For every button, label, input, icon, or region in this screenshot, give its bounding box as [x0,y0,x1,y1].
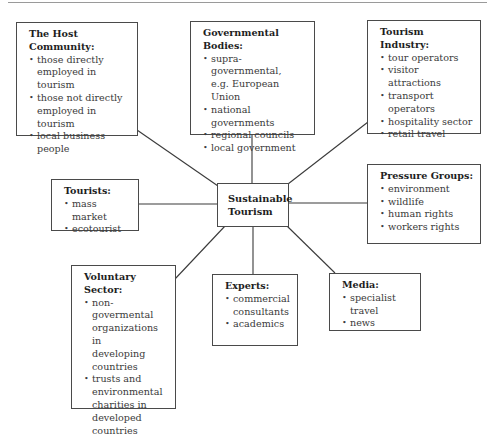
bullet-icon: • [29,130,34,143]
list-item: • regional councils [203,129,308,142]
item-text: specialist travel [350,292,414,318]
item-text: academics [233,318,291,331]
item-text: non-govermental [92,297,169,323]
bullet-icon: • [225,293,230,306]
node-media: Media: • specialist travel • news [329,273,421,331]
title-line: Bodies: [203,40,308,53]
item-text: those not directly [37,92,131,105]
bullet-icon: • [380,90,385,103]
list-item: • hospitality sector [380,116,474,129]
node-title: Tourists: [64,185,132,198]
item-text: countries [92,361,169,374]
item-text: environmental [92,386,169,399]
list-item: • visitor attractions [380,64,474,90]
list-item: • news [342,317,414,330]
node-title: Media: [342,279,414,292]
bullet-icon: • [84,373,89,386]
title-line: Experts: [225,280,291,293]
node-tourists: Tourists: • mass market • ecotourist [51,179,139,231]
title-line: Voluntary Sector: [84,271,169,297]
item-text: countries [92,425,169,437]
item-text: human rights [388,208,474,221]
node-governmental-bodies: Governmental Bodies: • supra-governmenta… [190,21,315,135]
title-line: Tourism Industry: [380,26,474,52]
title-line: Community: [29,41,131,54]
node-title: The Host Community: [29,28,131,54]
center-title-line: Tourism [228,205,288,218]
bullet-icon: • [29,92,34,105]
bullet-icon: • [64,198,69,211]
list-item: • trusts and environmental charities in … [84,373,169,437]
item-text: transport operators [388,90,474,116]
item-text: ecotourist [72,223,132,236]
item-text: commercial [233,293,291,306]
bullet-icon: • [380,196,385,209]
bullet-icon: • [380,128,385,141]
item-text: trusts and [92,373,169,386]
bullet-icon: • [203,53,208,66]
title-line: Governmental [203,27,308,40]
item-list: • mass market • ecotourist [64,198,132,236]
title-line: The Host [29,28,131,41]
item-text: environment [388,183,474,196]
item-list: • those directly employed in tourism • t… [29,54,131,156]
node-sustainable-tourism: Sustainable Tourism [217,183,289,227]
connector-media [287,226,335,273]
item-text: e.g. European Union [211,78,308,104]
item-text: mass market [72,198,132,224]
item-text: organizations in [92,322,169,348]
list-item: • retail travel [380,128,474,141]
item-text: charities in [92,399,169,412]
bullet-icon: • [203,129,208,142]
bullet-icon: • [203,104,208,117]
list-item: • transport operators [380,90,474,116]
list-item: • specialist travel [342,292,414,318]
list-item: • academics [225,318,291,331]
item-text: news [350,317,414,330]
node-title: Voluntary Sector: [84,271,169,297]
list-item: • workers rights [380,221,474,234]
item-text: supra-governmental, [211,53,308,79]
list-item: • tour operators [380,52,474,65]
list-item: • national governments [203,104,308,130]
bullet-icon: • [29,54,34,67]
list-item: • those directly employed in tourism [29,54,131,92]
item-list: • supra-governmental, e.g. European Unio… [203,53,308,155]
item-text: consultants [233,306,291,319]
item-text: national governments [211,104,308,130]
bullet-icon: • [380,208,385,221]
bullet-icon: • [380,64,385,77]
list-item: • environment [380,183,474,196]
list-item: • non-govermental organizations in devel… [84,297,169,374]
item-list: • environment • wildlife • human rights … [380,183,474,234]
item-text: those directly [37,54,131,67]
node-voluntary-sector: Voluntary Sector: • non-govermental orga… [71,265,176,409]
item-text: hospitality sector [388,116,474,129]
node-title: Pressure Groups: [380,170,474,183]
bullet-icon: • [342,292,347,305]
bullet-icon: • [380,116,385,129]
item-text: employed in tourism [37,105,131,131]
node-title: Tourism Industry: [380,26,474,52]
list-item: • human rights [380,208,474,221]
node-pressure-groups: Pressure Groups: • environment • wildlif… [367,164,481,244]
connector-voluntary-sector [175,226,225,279]
item-text: people [37,143,131,156]
bullet-icon: • [380,221,385,234]
list-item: • commercial consultants [225,293,291,319]
list-item: • local government [203,142,308,155]
title-line: Tourists: [64,185,132,198]
node-title: Experts: [225,280,291,293]
bullet-icon: • [380,52,385,65]
title-line: Media: [342,279,414,292]
item-text: developing [92,348,169,361]
item-text: retail travel [388,128,474,141]
item-list: • non-govermental organizations in devel… [84,297,169,437]
list-item: • local business people [29,130,131,156]
node-tourism-industry: Tourism Industry: • tour operators • vis… [367,20,481,134]
list-item: • ecotourist [64,223,132,236]
item-text: developed [92,412,169,425]
node-title: Governmental Bodies: [203,27,308,53]
bullet-icon: • [64,223,69,236]
center-title-line: Sustainable [228,192,288,205]
